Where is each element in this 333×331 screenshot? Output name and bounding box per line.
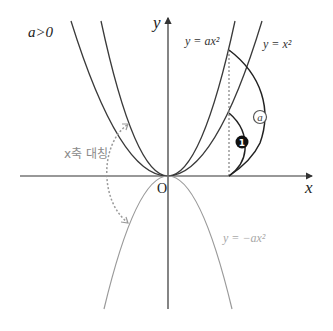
label-y-equals-neg-ax-squared: y = −ax²: [222, 231, 266, 245]
origin-label: O: [157, 181, 167, 196]
label-y-equals-ax-squared: y = ax²: [184, 34, 220, 48]
parabola-diagram: a>0 y x O y = ax² y = x² y = −ax² x축 대칭 …: [0, 0, 333, 331]
condition-label: a>0: [28, 24, 54, 40]
y-axis-label: y: [151, 13, 161, 32]
symmetry-label: x축 대칭: [64, 147, 108, 161]
marker-a-label: a: [257, 111, 263, 123]
symmetry-arrow: [107, 125, 127, 222]
marker-1-label: 1: [239, 138, 245, 148]
label-y-equals-x-squared: y = x²: [262, 37, 292, 51]
x-axis-label: x: [304, 178, 313, 197]
